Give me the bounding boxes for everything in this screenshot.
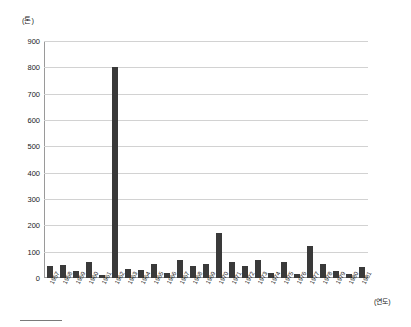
plot-area: [44, 41, 368, 278]
footer-divider: [20, 320, 62, 321]
bar: [216, 233, 222, 278]
gridline: [44, 146, 368, 147]
gridline: [44, 173, 368, 174]
bar-chart-figure: (톤) 0100200300400500600700800900 1957195…: [0, 0, 411, 327]
gridline: [44, 67, 368, 68]
y-axis-tick-label: 500: [0, 142, 40, 151]
bar: [112, 67, 118, 278]
x-axis-title: (연도): [374, 296, 391, 306]
y-axis-tick-label: 400: [0, 168, 40, 177]
y-axis-tick-label: 600: [0, 116, 40, 125]
gridline: [44, 120, 368, 121]
y-axis-tick-label: 800: [0, 63, 40, 72]
gridline: [44, 41, 368, 42]
y-axis-tick-label: 700: [0, 89, 40, 98]
gridline: [44, 252, 368, 253]
gridline: [44, 94, 368, 95]
y-axis-tick-label: 0: [0, 274, 40, 283]
gridline: [44, 199, 368, 200]
y-axis-tick-label: 900: [0, 37, 40, 46]
y-axis-tick-label: 300: [0, 195, 40, 204]
gridline: [44, 225, 368, 226]
y-axis-unit-label: (톤): [22, 14, 34, 25]
y-axis-tick-label: 100: [0, 247, 40, 256]
y-axis-tick-label: 200: [0, 221, 40, 230]
